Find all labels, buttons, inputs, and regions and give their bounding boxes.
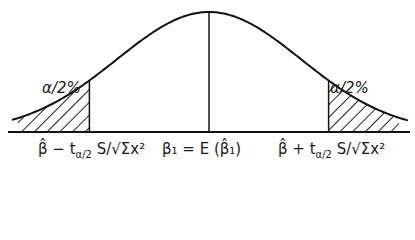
lower-bound-sub: α/2 [76,149,92,160]
upper-bound-label: β̂ + tα/2 S/√Σx² [278,140,385,160]
right-tail-label: α/2% [330,79,369,97]
upper-bound-tail: S/√Σx² [332,140,385,158]
left-tail-label: α/2% [42,79,81,97]
upper-bound-sub: α/2 [316,149,332,160]
upper-bound-main: β̂ + t [278,140,316,158]
lower-bound-main: β̂ − t [38,140,76,158]
lower-bound-label: β̂ − tα/2 S/√Σx² [38,140,145,160]
lower-bound-tail: S/√Σx² [92,140,145,158]
center-label: β₁ = E (β̂₁) [162,140,241,158]
